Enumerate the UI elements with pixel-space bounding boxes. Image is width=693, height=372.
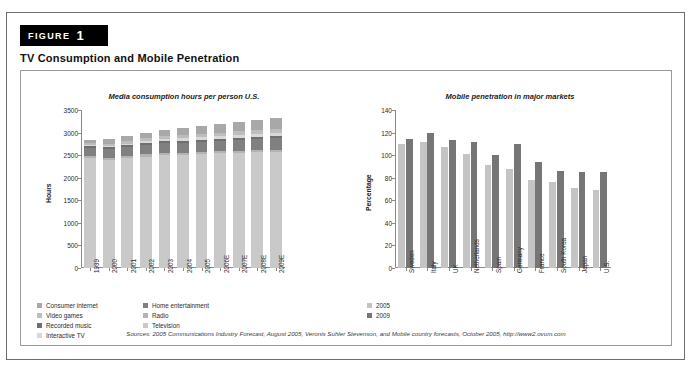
chart-mobile-penetration: Mobile penetration in major markets02040… <box>351 92 669 346</box>
grouped-bar <box>549 182 556 268</box>
bar-segment <box>121 141 133 143</box>
bar-segment <box>214 151 226 153</box>
legend-item: 2005 <box>367 302 390 309</box>
bar-segment <box>177 155 189 268</box>
stacked-bar <box>196 110 208 268</box>
x-axis-tick-mark <box>202 268 203 271</box>
legend-label: 2005 <box>376 302 390 309</box>
legend-swatch <box>367 303 372 308</box>
bar-segment <box>177 135 189 138</box>
bar-segment <box>140 145 152 155</box>
grouped-bar <box>571 188 578 268</box>
grouped-bar <box>528 180 535 268</box>
legend-swatch <box>143 323 148 328</box>
x-axis-tick-mark <box>90 268 91 271</box>
bar-segment <box>84 145 96 146</box>
bar-segment <box>196 152 208 154</box>
bar-segment <box>84 158 96 268</box>
y-axis <box>81 110 82 268</box>
bar-segment <box>251 152 263 268</box>
x-axis-tick-label: Japan <box>581 256 588 273</box>
legend-swatch <box>143 303 148 308</box>
bar-segment <box>121 147 133 156</box>
bar-segment <box>121 145 133 147</box>
bar-segment <box>140 133 152 139</box>
legend-item: Consumer internet <box>37 302 98 309</box>
x-axis-tick-mark <box>146 268 147 271</box>
legend-item: Television <box>143 322 209 329</box>
x-axis-tick-label: 2006E <box>223 255 230 273</box>
bar-segment <box>214 136 226 139</box>
bar-segment <box>177 128 189 135</box>
figure-tag-number: 1 <box>76 29 83 42</box>
x-axis-tick-mark <box>109 268 110 271</box>
bar-segment <box>270 133 282 136</box>
bar-segment <box>121 156 133 158</box>
bar-segment <box>103 147 115 149</box>
y-axis-tick-mark <box>78 155 81 156</box>
y-axis-tick-mark <box>392 200 395 201</box>
bar-segment <box>177 153 189 155</box>
x-axis-tick-label: France <box>538 253 545 273</box>
bar-segment <box>233 151 245 153</box>
bar-segment <box>214 153 226 268</box>
legend-swatch <box>143 313 148 318</box>
stacked-bar <box>233 110 245 268</box>
bar-segment <box>140 157 152 269</box>
legend-label: Recorded music <box>46 322 92 329</box>
x-axis-tick-label: Sweden <box>408 250 415 273</box>
bar-segment <box>251 134 263 137</box>
legend-label: Home entertainment <box>152 302 209 309</box>
bar-segment <box>177 143 189 153</box>
x-axis-tick-label: U.S. <box>603 261 610 273</box>
grouped-bar <box>449 140 456 268</box>
chart-title: Media consumption hours per person U.S. <box>21 92 347 101</box>
y-axis-tick-mark <box>78 200 81 201</box>
chart-legend: Home entertainmentRadioTelevision <box>143 302 209 332</box>
stacked-bar <box>103 110 115 268</box>
bar-segment <box>251 139 263 150</box>
bar-segment <box>196 134 208 137</box>
legend-swatch <box>367 313 372 318</box>
x-axis-tick-label: South Korea <box>560 238 567 273</box>
legend-label: Video games <box>46 312 83 319</box>
y-axis-tick-mark <box>78 268 81 269</box>
x-axis-tick-label: UK <box>452 264 459 273</box>
stacked-bar <box>270 110 282 268</box>
bar-segment <box>84 143 96 145</box>
legend-swatch <box>37 303 42 308</box>
bar-segment <box>121 144 133 145</box>
stacked-bar <box>251 110 263 268</box>
figure-tag: FIGURE 1 <box>20 25 108 46</box>
y-axis-tick-mark <box>78 223 81 224</box>
bar-segment <box>103 149 115 158</box>
grouped-bar <box>593 190 600 268</box>
legend-item: Recorded music <box>37 322 98 329</box>
x-axis-tick-mark <box>406 268 407 271</box>
charts-panel: Media consumption hours per person U.S.0… <box>20 70 672 346</box>
bar-segment <box>214 139 226 141</box>
chart-media-consumption: Media consumption hours per person U.S.0… <box>21 92 347 346</box>
grouped-bar <box>600 172 607 268</box>
y-axis-label: Hours <box>45 183 52 203</box>
bar-segment <box>233 153 245 268</box>
x-axis-tick-label: 2000 <box>111 259 118 273</box>
legend-item: Home entertainment <box>143 302 209 309</box>
x-axis-tick-mark <box>535 268 536 271</box>
x-axis-tick-label: 2009E <box>278 255 285 273</box>
bar-segment <box>140 138 152 141</box>
grouped-bar <box>463 154 470 268</box>
legend-label: Radio <box>152 312 168 319</box>
x-axis-tick-mark <box>492 268 493 271</box>
bar-segment <box>103 146 115 147</box>
bar-segment <box>103 160 115 268</box>
x-axis-tick-mark <box>514 268 515 271</box>
grouped-bar <box>492 155 499 268</box>
stacked-bar <box>177 110 189 268</box>
bar-segment <box>251 137 263 139</box>
x-axis-tick-label: 2007E <box>241 255 248 273</box>
y-axis-tick-mark <box>392 245 395 246</box>
x-axis-tick-mark <box>239 268 240 271</box>
bar-segment <box>214 124 226 133</box>
bar-segment <box>196 154 208 268</box>
